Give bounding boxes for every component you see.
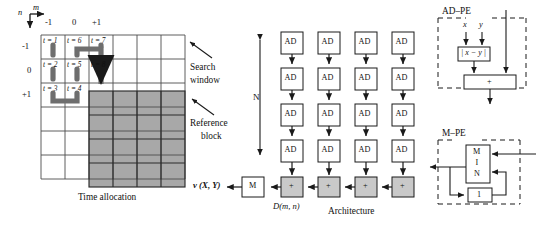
search-window-annotation-line1: Search: [190, 63, 215, 72]
ad-vertical-links: [292, 54, 403, 175]
architecture-panel: N AD AD AD AD AD AD AD AD AD AD AD AD AD…: [245, 0, 420, 227]
ad-cell-label: AD: [285, 38, 297, 46]
ad-cell-label: AD: [322, 74, 334, 82]
ad-cell-boxes: [281, 32, 414, 162]
time-allocation-panel: m n -1 0 +1 -1 0 +1 t = 1 t = 6 t = 7 t …: [0, 0, 250, 227]
reference-block-annotation-line2: block: [201, 132, 222, 141]
ad-pe-input-y-label: y: [479, 21, 483, 29]
motion-vector-output-label: v (X, Y): [193, 181, 220, 190]
adder-label: +: [289, 182, 294, 190]
ad-pe-title: AD–PE: [442, 7, 471, 16]
ad-cell-label: AD: [359, 38, 371, 46]
time-cell-label: t = 4: [67, 85, 81, 92]
ad-pe-input-arrows: [466, 32, 482, 45]
figure-root: m n -1 0 +1 -1 0 +1 t = 1 t = 6 t = 7 t …: [0, 0, 544, 227]
axis-label-n: n: [18, 9, 22, 17]
m-tick-1: 0: [72, 18, 76, 27]
adder-label: +: [326, 182, 331, 190]
time-cell-label: t = 5: [67, 61, 81, 68]
sad-output-label: D(m, n): [273, 202, 300, 211]
adder-label: +: [400, 182, 405, 190]
min-label-char-n: N: [474, 170, 480, 178]
ad-pe-panel: AD–PE x y | x − y | +: [420, 0, 544, 112]
ad-cell-label: AD: [396, 146, 408, 154]
min-label-char-i: I: [476, 159, 479, 167]
n-tick-1: 0: [27, 66, 31, 75]
time-cell-label: t = 3: [43, 85, 57, 92]
reference-block-annotation-line1: Reference: [190, 119, 228, 128]
search-window-annotation-line2: window: [190, 76, 220, 85]
ad-cell-label: AD: [359, 146, 371, 154]
abs-diff-label: | x − y |: [461, 49, 486, 57]
ad-cell-label: AD: [359, 74, 371, 82]
min-label-char-m: M: [473, 148, 480, 156]
time-allocation-caption: Time allocation: [78, 193, 136, 202]
time-cell-label: t = 6: [67, 37, 81, 44]
ad-cell-label: AD: [285, 110, 297, 118]
ad-cell-label: AD: [285, 146, 297, 154]
ad-cell-label: AD: [396, 110, 408, 118]
ad-pe-adder-label: +: [487, 78, 492, 86]
time-cell-label: t = 8: [91, 61, 105, 68]
ad-cell-label: AD: [322, 146, 334, 154]
m-pe-title: M–PE: [442, 129, 466, 138]
register-label: 1: [477, 191, 481, 199]
axis-arrows: [30, 14, 44, 28]
ad-cell-label: AD: [359, 110, 371, 118]
time-cell-label: t = 2: [43, 61, 57, 68]
time-cell-label: t = 7: [91, 37, 105, 44]
ad-cell-label: AD: [285, 74, 297, 82]
architecture-caption: Architecture: [328, 207, 374, 216]
min-accumulator-label: M: [249, 182, 256, 190]
ad-cell-label: AD: [322, 38, 334, 46]
m-pe-panel: M–PE M I N 1: [420, 112, 544, 227]
m-pe-graphics: [420, 112, 544, 227]
n-tick-2: +1: [22, 90, 31, 99]
ad-cell-label: AD: [322, 110, 334, 118]
time-cell-label: t = 1: [43, 37, 57, 44]
n-tick-0: -1: [22, 42, 29, 51]
m-tick-0: -1: [45, 18, 52, 27]
ad-cell-label: AD: [396, 38, 408, 46]
adder-label: +: [363, 182, 368, 190]
m-tick-2: +1: [92, 18, 101, 27]
ad-pe-input-x-label: x: [463, 21, 467, 29]
n-span-label: N: [253, 93, 260, 102]
ad-cell-label: AD: [396, 74, 408, 82]
axis-label-m: m: [33, 4, 39, 12]
